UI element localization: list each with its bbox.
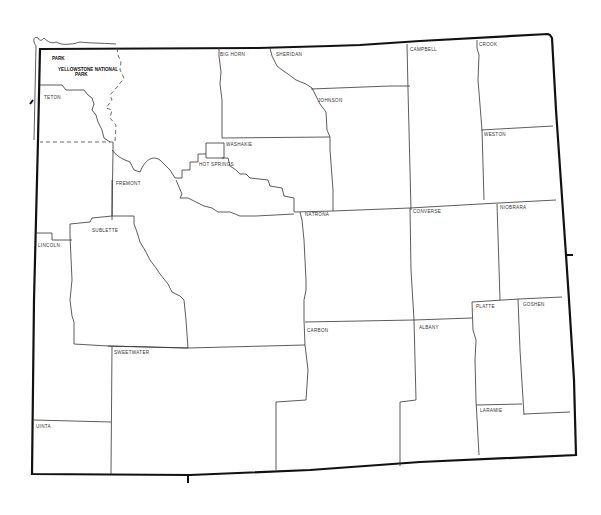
- park-teton-border: [40, 85, 110, 142]
- label-park: PARK: [52, 56, 65, 61]
- sweetwater-north-border: [108, 345, 305, 348]
- label-sheridan: SHERIDAN: [276, 52, 302, 57]
- goshen-south-border: [524, 412, 570, 414]
- albany-north-border: [305, 318, 472, 322]
- label-albany: ALBANY: [419, 325, 439, 330]
- label-big-horn: BIG HORN: [220, 52, 245, 57]
- johnson-campbell-border: [407, 44, 411, 210]
- label-teton: TETON: [44, 95, 61, 100]
- lincoln-north-border: [36, 233, 72, 240]
- label-fremont: FREMONT: [116, 181, 141, 186]
- label-yellowstone: YELLOWSTONE NATIONAL: [58, 67, 118, 72]
- label-crook: CROOK: [479, 42, 498, 47]
- label-natrona: NATRONA: [305, 212, 330, 217]
- fremont-north-border: [112, 150, 175, 178]
- label-hot-springs: HOT SPRINGS: [199, 162, 234, 167]
- west-border-outer: [34, 46, 36, 140]
- label-converse: CONVERSE: [413, 209, 441, 214]
- sheridan-bighorn-border: [270, 48, 330, 137]
- label-laramie: LARAMIE: [480, 408, 502, 413]
- bighorn-washakie-border: [222, 137, 330, 138]
- converse-west-border: [410, 208, 414, 320]
- natrona-west-border: [300, 212, 306, 345]
- laramie-north-border: [476, 404, 522, 405]
- sublette-border: [70, 216, 188, 348]
- platte-goshen-north-border: [472, 297, 562, 302]
- bighorn-west-border: [219, 48, 222, 138]
- goshen-west-border: [518, 299, 524, 415]
- platte-west-border: [472, 302, 479, 455]
- label-uinta: UINTA: [36, 424, 52, 429]
- crook-west-border: [477, 40, 484, 200]
- label-sublette: SUBLETTE: [92, 228, 118, 233]
- niobrara-west-border: [497, 204, 500, 300]
- albany-carbon-border: [400, 320, 416, 466]
- uinta-north-border: [34, 420, 111, 422]
- label-lincoln: LINCOLN: [38, 243, 60, 248]
- label-weston: WESTON: [484, 132, 506, 137]
- label-platte: PLATTE: [476, 304, 495, 309]
- label-johnson: JOHNSON: [318, 98, 343, 103]
- label-yellowstone-park: PARK: [75, 72, 88, 77]
- sheridan-johnson-border: [311, 86, 410, 89]
- northwest-corner-border: [34, 37, 116, 46]
- hot-springs-border: [175, 154, 294, 216]
- label-washakie: WASHAKIE: [226, 142, 252, 147]
- washakie-box: [206, 143, 224, 158]
- label-campbell: CAMPBELL: [410, 47, 437, 52]
- label-goshen: GOSHEN: [523, 302, 545, 307]
- carbon-west-border: [276, 345, 308, 470]
- washakie-east-border: [330, 137, 333, 211]
- crook-weston-border: [481, 126, 553, 130]
- sweetwater-west-border: [111, 346, 112, 474]
- label-sweetwater: SWEETWATER: [114, 350, 150, 355]
- wyoming-county-map: PARK YELLOWSTONE NATIONAL PARK TETON BIG…: [0, 0, 601, 515]
- label-niobrara: NIOBRARA: [500, 205, 527, 210]
- label-carbon: CARBON: [307, 328, 328, 333]
- border-tick-left: [30, 100, 33, 104]
